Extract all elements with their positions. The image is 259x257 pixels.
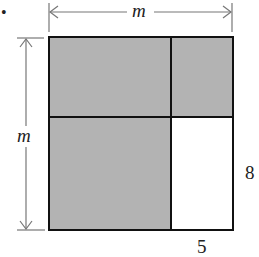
right-side-label: 8 (245, 163, 255, 182)
bottom-side-label: 5 (197, 237, 207, 256)
top-side-label: m (132, 1, 146, 20)
region-top-left (49, 37, 171, 117)
bullet-marker: • (1, 5, 7, 21)
region-bottom-right (171, 117, 233, 230)
region-top-right (171, 37, 233, 117)
left-side-label: m (17, 126, 31, 145)
region-bottom-left (49, 117, 171, 230)
